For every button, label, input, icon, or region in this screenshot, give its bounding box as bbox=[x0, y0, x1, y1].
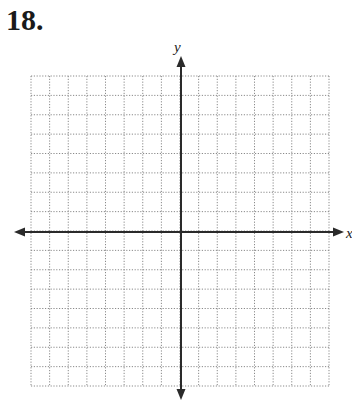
x-axis-left-arrow-icon bbox=[14, 228, 25, 237]
y-axis-down-arrow-icon bbox=[177, 389, 186, 400]
y-axis-label: y bbox=[172, 39, 181, 55]
x-axis bbox=[14, 228, 344, 237]
y-axis-up-arrow-icon bbox=[177, 56, 186, 67]
y-axis bbox=[177, 56, 186, 400]
coordinate-grid: y x bbox=[0, 0, 352, 403]
x-axis-right-arrow-icon bbox=[333, 228, 344, 237]
x-axis-label: x bbox=[345, 225, 352, 241]
